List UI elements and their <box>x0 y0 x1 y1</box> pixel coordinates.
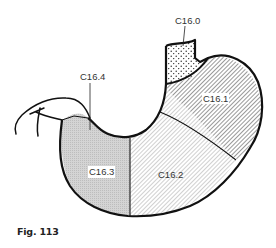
label-c16-0: C16.0 <box>175 15 200 26</box>
stomach-diagram: C16.0 C16.1 C16.2 C16.3 C16.4 <box>0 0 276 248</box>
label-c16-4: C16.4 <box>80 71 105 82</box>
label-c16-2: C16.2 <box>158 169 183 180</box>
label-c16-1: C16.1 <box>203 93 228 104</box>
label-c16-3: C16.3 <box>89 166 114 177</box>
figure-caption: Fig. 113 <box>17 226 59 237</box>
region-c16-3-antrum <box>62 114 131 215</box>
